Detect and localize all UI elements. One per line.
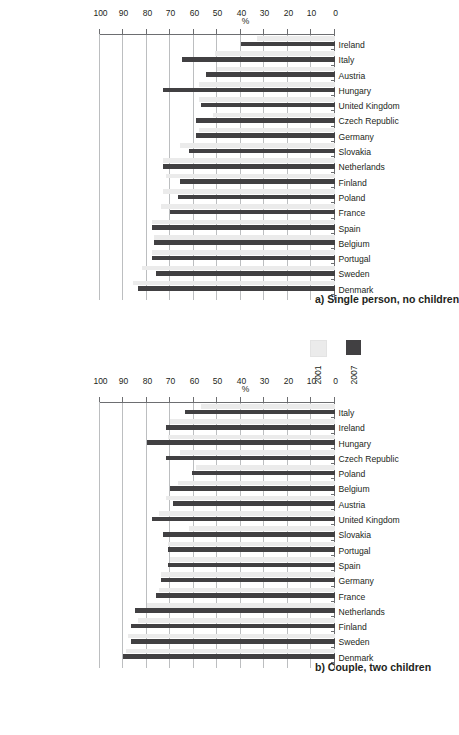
category-tick [331, 494, 335, 495]
bar-2007 [180, 179, 335, 184]
category-tick [331, 448, 335, 449]
category-label: Spain [339, 224, 361, 233]
bar-2007 [135, 608, 335, 613]
category-label: Netherlands [339, 607, 385, 616]
category-tick [331, 433, 335, 434]
bar-2007 [185, 410, 335, 415]
bar-2001 [196, 465, 335, 470]
category-tick [331, 233, 335, 234]
bar-2007 [138, 286, 335, 291]
legend-swatch-2007 [346, 340, 361, 355]
category-tick [331, 662, 335, 663]
chart-a-title: a) Single person, no children [315, 293, 459, 305]
axis-tick-label: 30 [253, 9, 277, 18]
bar-2001 [218, 67, 336, 72]
gridline [123, 402, 124, 668]
bar-2007 [124, 654, 336, 659]
category-tick [331, 80, 335, 81]
category-tick [331, 95, 335, 96]
category-label: France [339, 209, 366, 218]
axis-tick-label: 70 [159, 9, 183, 18]
bar-2001 [171, 557, 336, 562]
bar-2001 [199, 128, 335, 133]
bar-2007 [166, 425, 335, 430]
category-label: Austria [339, 71, 366, 80]
legend-label-2007: 2007 [350, 366, 359, 385]
category-tick [331, 417, 335, 418]
bar-2007 [189, 149, 335, 154]
bar-2001 [199, 82, 335, 87]
gridline [146, 34, 147, 300]
bar-2007 [161, 578, 335, 583]
bar-2001 [142, 266, 335, 271]
bar-2001 [180, 450, 335, 455]
bar-2001 [180, 143, 335, 148]
category-label: Finland [339, 178, 367, 187]
category-tick [331, 570, 335, 571]
category-tick [331, 601, 335, 602]
bar-2001 [138, 618, 335, 623]
bar-2007 [154, 240, 335, 245]
axis-tick-label: 10 [300, 9, 324, 18]
category-tick [331, 524, 335, 525]
category-label: Poland [339, 470, 366, 479]
category-label: Sweden [339, 638, 370, 647]
axis-tick-label: 50 [206, 377, 230, 386]
bar-2007 [201, 103, 335, 108]
category-label: United Kingdom [339, 102, 400, 111]
category-tick [331, 202, 335, 203]
category-label: Slovakia [339, 531, 371, 540]
category-label: Czech Republic [339, 117, 399, 126]
bar-2007 [196, 118, 335, 123]
category-tick [331, 34, 335, 35]
chart-b-axis-label: % [242, 385, 250, 394]
category-tick [331, 49, 335, 50]
bar-2001 [166, 174, 335, 179]
category-tick [331, 172, 335, 173]
bar-2001 [152, 250, 335, 255]
category-label: Denmark [339, 653, 374, 662]
category-label: Czech Republic [339, 454, 399, 463]
bar-2007 [156, 593, 335, 598]
category-label: France [339, 592, 366, 601]
category-label: Denmark [339, 285, 374, 294]
bar-2007 [163, 88, 335, 93]
bar-2001 [133, 281, 335, 286]
category-label: Italy [339, 56, 355, 65]
chart-a-axis-label: % [242, 17, 250, 26]
bar-2007 [171, 486, 336, 491]
chart-b: b) Couple, two children % 01020304050607… [0, 368, 405, 735]
axis-tick-label: 80 [136, 9, 160, 18]
category-tick [331, 463, 335, 464]
axis-tick-label: 0 [324, 9, 348, 18]
axis-tick-label: 100 [89, 377, 113, 386]
bar-2001 [166, 496, 335, 501]
bar-2001 [147, 603, 335, 608]
category-tick [331, 555, 335, 556]
category-axis [100, 402, 335, 403]
category-tick [331, 540, 335, 541]
bar-2007 [163, 532, 335, 537]
legend-label-2001: 2001 [314, 366, 323, 385]
category-label: Portugal [339, 255, 371, 264]
category-label: Hungary [339, 86, 371, 95]
category-tick [331, 294, 335, 295]
bar-2007 [147, 440, 335, 445]
category-label: Portugal [339, 546, 371, 555]
category-tick [331, 263, 335, 264]
category-tick [331, 65, 335, 66]
bar-2007 [196, 133, 335, 138]
bar-2007 [131, 624, 335, 629]
category-tick [331, 478, 335, 479]
category-axis [100, 34, 335, 35]
category-tick [331, 631, 335, 632]
category-label: United Kingdom [339, 516, 400, 525]
category-tick [331, 509, 335, 510]
category-label: Poland [339, 193, 366, 202]
bar-2001 [159, 588, 335, 593]
category-tick [331, 126, 335, 127]
axis-tick-label: 90 [112, 377, 136, 386]
category-label: Netherlands [339, 163, 385, 172]
chart-a-container: a) Single person, no children % 01020304… [0, 0, 405, 367]
category-tick [331, 156, 335, 157]
